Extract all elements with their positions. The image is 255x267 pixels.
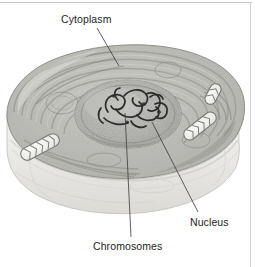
label-nucleus: Nucleus (190, 216, 229, 228)
label-cytoplasm: Cytoplasm (61, 13, 112, 25)
cell-diagram-figure: Cytoplasm Nucleus Chromosomes (0, 0, 255, 267)
label-chromosomes: Chromosomes (93, 240, 162, 252)
